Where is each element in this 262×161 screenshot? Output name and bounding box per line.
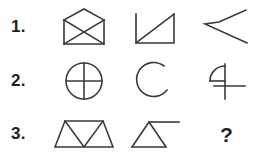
chevron-parallelogram-shape [191, 0, 262, 54]
puzzle-row: 3. ? [0, 107, 262, 161]
trapezoid-zigzag-shape [48, 107, 119, 161]
envelope-x-icon [61, 7, 107, 47]
shape-sequence-puzzle: 1. 2. [0, 0, 262, 161]
missing-answer: ? [191, 107, 262, 161]
puzzle-row: 2. [0, 54, 262, 108]
trapezoid-zigzag-icon [53, 118, 115, 150]
four-like-shape [191, 54, 262, 108]
open-square-with-diagonal-shape [119, 0, 190, 54]
chevron-open-icon [202, 7, 250, 47]
triangle-with-tail-shape [119, 107, 190, 161]
puzzle-row: 1. [0, 0, 262, 54]
circle-with-cross-shape [48, 54, 119, 108]
circle-cross-icon [63, 60, 105, 102]
row-label-2: 2. [0, 71, 48, 91]
triangle-tail-icon [129, 118, 181, 150]
row-label-3: 3. [0, 124, 48, 144]
question-mark-text: ? [220, 124, 233, 145]
envelope-with-x-shape [48, 0, 119, 54]
bracket-diagonal-icon [133, 8, 177, 46]
arc-open-icon [134, 60, 176, 102]
row-label-1: 1. [0, 17, 48, 37]
open-arc-shape [119, 54, 190, 108]
figure-four-icon [204, 60, 248, 102]
